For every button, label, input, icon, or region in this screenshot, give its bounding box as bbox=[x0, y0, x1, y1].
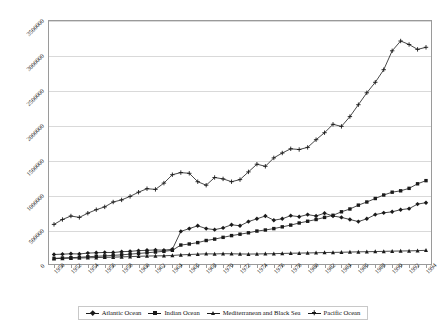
data-point bbox=[390, 210, 394, 214]
data-point bbox=[314, 218, 317, 221]
data-point bbox=[280, 217, 284, 221]
legend-marker-cross-icon bbox=[308, 309, 321, 317]
series-mediterranean-and-black-sea bbox=[52, 248, 428, 260]
legend-item-mediterranean-and-black-sea[interactable]: Mediterranean and Black Sea bbox=[207, 309, 301, 317]
data-point bbox=[382, 211, 386, 215]
legend-label: Mediterranean and Black Sea bbox=[223, 309, 301, 317]
data-point bbox=[297, 215, 301, 219]
data-point bbox=[306, 220, 309, 223]
series-layer bbox=[48, 20, 432, 265]
data-point bbox=[263, 214, 267, 218]
data-point bbox=[407, 42, 411, 46]
data-point bbox=[60, 252, 64, 256]
data-point bbox=[280, 151, 284, 155]
data-point bbox=[52, 222, 56, 226]
data-point bbox=[348, 207, 351, 210]
data-point bbox=[213, 237, 216, 240]
data-point bbox=[221, 236, 224, 239]
data-point bbox=[339, 215, 343, 219]
data-point bbox=[162, 250, 165, 253]
data-point bbox=[382, 193, 385, 196]
data-point bbox=[119, 198, 123, 202]
data-point bbox=[128, 194, 132, 198]
data-point bbox=[179, 243, 182, 246]
data-point bbox=[77, 215, 81, 219]
data-point bbox=[416, 182, 419, 185]
data-point bbox=[103, 250, 107, 254]
y-axis-tick-label: 1500000 bbox=[25, 157, 45, 177]
data-point bbox=[212, 227, 216, 231]
data-point bbox=[229, 180, 233, 184]
y-axis-tick-label: 2500000 bbox=[25, 87, 45, 107]
data-point bbox=[399, 189, 402, 192]
data-point bbox=[322, 211, 326, 215]
data-point bbox=[111, 200, 115, 204]
data-point bbox=[171, 249, 174, 252]
y-axis-tick-label: 2000000 bbox=[25, 122, 45, 142]
data-point bbox=[407, 187, 410, 190]
data-point bbox=[60, 217, 64, 221]
data-point bbox=[238, 233, 241, 236]
data-point bbox=[289, 147, 293, 151]
data-point bbox=[255, 217, 259, 221]
series-line bbox=[54, 181, 426, 259]
data-point bbox=[145, 187, 149, 191]
data-point bbox=[188, 242, 191, 245]
data-point bbox=[289, 213, 293, 217]
data-point bbox=[196, 224, 200, 228]
data-point bbox=[340, 210, 343, 213]
data-point bbox=[230, 234, 233, 237]
data-point bbox=[382, 68, 386, 72]
data-point bbox=[314, 214, 318, 218]
y-axis-tick-label: 0 bbox=[38, 262, 45, 269]
data-point bbox=[179, 229, 183, 233]
data-point bbox=[390, 191, 393, 194]
y-axis-tick-label: 3500000 bbox=[25, 17, 45, 37]
data-point bbox=[281, 225, 284, 228]
legend-label: Atlantic Ocean bbox=[102, 309, 142, 317]
data-point bbox=[86, 211, 90, 215]
y-axis: 0500000100000015000002000000250000030000… bbox=[0, 0, 46, 265]
data-point bbox=[289, 223, 292, 226]
data-point bbox=[238, 224, 242, 228]
data-point bbox=[255, 229, 258, 232]
data-point bbox=[52, 252, 56, 256]
data-point bbox=[94, 208, 98, 212]
legend-label: Pacific Ocean bbox=[324, 309, 361, 317]
data-point bbox=[154, 250, 157, 253]
legend-item-pacific-ocean[interactable]: Pacific Ocean bbox=[308, 309, 361, 317]
legend-label: Indian Ocean bbox=[164, 309, 199, 317]
legend-item-indian-ocean[interactable]: Indian Ocean bbox=[148, 309, 199, 317]
data-point bbox=[204, 226, 208, 230]
data-point bbox=[69, 214, 73, 218]
data-point bbox=[331, 214, 334, 217]
legend-marker-triangle-icon bbox=[207, 309, 220, 317]
data-point bbox=[247, 231, 250, 234]
y-axis-tick-label: 500000 bbox=[27, 227, 45, 245]
data-point bbox=[136, 190, 140, 194]
data-point bbox=[94, 251, 98, 255]
data-point bbox=[221, 226, 225, 230]
data-point bbox=[272, 227, 275, 230]
data-point bbox=[204, 239, 207, 242]
data-point bbox=[356, 219, 360, 223]
data-point bbox=[187, 226, 191, 230]
data-point bbox=[297, 221, 300, 224]
data-point bbox=[348, 217, 352, 221]
data-point bbox=[69, 252, 73, 256]
data-point bbox=[196, 241, 199, 244]
data-point bbox=[77, 252, 81, 256]
series-pacific-ocean bbox=[52, 39, 428, 227]
data-point bbox=[415, 47, 419, 51]
data-point bbox=[374, 197, 377, 200]
legend-item-atlantic-ocean[interactable]: Atlantic Ocean bbox=[86, 309, 142, 317]
data-point bbox=[103, 205, 107, 209]
data-point bbox=[86, 251, 90, 255]
data-point bbox=[229, 223, 233, 227]
data-point bbox=[415, 202, 419, 206]
data-point bbox=[297, 147, 301, 151]
data-point bbox=[407, 206, 411, 210]
data-point bbox=[264, 228, 267, 231]
data-point bbox=[398, 208, 402, 212]
data-point bbox=[424, 179, 427, 182]
